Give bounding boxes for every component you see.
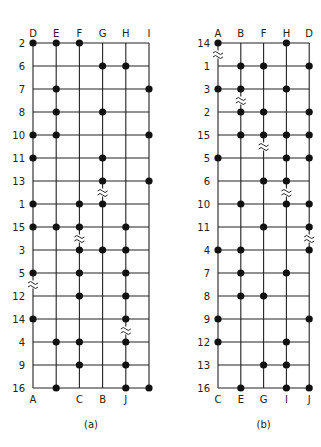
connection-dot (237, 131, 244, 138)
connection-dot (283, 200, 290, 207)
connection-dot (237, 384, 244, 391)
connection-dot (145, 384, 152, 391)
connection-dot (237, 62, 244, 69)
connection-dot (122, 315, 129, 322)
column-label-bottom: G (260, 394, 268, 405)
column-label-bottom: J (123, 394, 127, 405)
row-label: 15 (197, 130, 210, 141)
connection-dot (76, 292, 83, 299)
connection-dot (283, 177, 290, 184)
row-label: 12 (197, 337, 210, 348)
connection-dot (283, 384, 290, 391)
connection-dot (237, 269, 244, 276)
connection-dot (260, 292, 267, 299)
row-label: 11 (12, 153, 25, 164)
connection-dot (122, 292, 129, 299)
connection-dot (260, 62, 267, 69)
column-label-bottom: C (215, 394, 222, 405)
row-label: 4 (204, 245, 210, 256)
connection-dot (306, 108, 313, 115)
connection-dot (237, 108, 244, 115)
row-label: 7 (204, 268, 210, 279)
row-label: 6 (204, 176, 210, 187)
connection-dot (99, 177, 106, 184)
connection-dot (283, 154, 290, 161)
row-label: 10 (197, 199, 210, 210)
row-label: 7 (19, 84, 25, 95)
connection-dot (145, 131, 152, 138)
connection-dot (306, 131, 313, 138)
connection-dot (76, 200, 83, 207)
row-label: 4 (19, 337, 25, 348)
column-label-top: A (215, 28, 222, 39)
connection-dot (237, 85, 244, 92)
row-label: 12 (12, 291, 25, 302)
connection-dot (283, 361, 290, 368)
diagram-a: DEFGHIACBJ26781011131153512144916(a) (12, 28, 152, 430)
connection-dot (283, 131, 290, 138)
connection-dot (29, 200, 36, 207)
connection-dot (53, 338, 60, 345)
connection-dot (29, 154, 36, 161)
row-label: 10 (12, 130, 25, 141)
row-label: 9 (19, 360, 25, 371)
connection-dot (214, 246, 221, 253)
row-label: 2 (204, 107, 210, 118)
column-label-top: I (148, 28, 151, 39)
connection-dot (214, 315, 221, 322)
connection-dot (122, 223, 129, 230)
row-label: 2 (19, 38, 25, 49)
connection-dot (283, 269, 290, 276)
column-label-bottom: C (76, 394, 83, 405)
diagram-caption: (a) (84, 419, 98, 430)
column-label-top: D (29, 28, 37, 39)
connection-dot (29, 315, 36, 322)
connection-dot (99, 200, 106, 207)
row-label: 6 (19, 61, 25, 72)
connection-dot (214, 154, 221, 161)
connection-dot (29, 223, 36, 230)
connection-dot (122, 361, 129, 368)
column-label-top: F (77, 28, 83, 39)
column-label-top: D (305, 28, 313, 39)
row-label: 1 (19, 199, 25, 210)
connection-dot (122, 338, 129, 345)
row-label: 3 (19, 245, 25, 256)
connection-dot (306, 246, 313, 253)
row-label: 9 (204, 314, 210, 325)
row-label: 3 (204, 84, 210, 95)
connection-dot (29, 39, 36, 46)
connection-dot (76, 361, 83, 368)
column-label-top: H (122, 28, 130, 39)
connection-dot (214, 338, 221, 345)
column-label-bottom: A (30, 394, 37, 405)
column-label-top: F (261, 28, 267, 39)
connection-dot (237, 246, 244, 253)
connection-dot (76, 39, 83, 46)
connection-dot (214, 85, 221, 92)
connection-dot (53, 85, 60, 92)
column-label-top: B (237, 28, 244, 39)
connection-dot (237, 292, 244, 299)
connection-dot (260, 108, 267, 115)
connection-dot (306, 223, 313, 230)
connection-dot (283, 85, 290, 92)
connection-dot (306, 154, 313, 161)
column-label-bottom: B (99, 394, 106, 405)
connection-dot (122, 384, 129, 391)
row-label: 16 (197, 383, 210, 394)
connection-dot (237, 200, 244, 207)
row-label: 8 (19, 107, 25, 118)
connection-dot (145, 85, 152, 92)
connection-dot (283, 338, 290, 345)
column-label-bottom: E (238, 394, 244, 405)
connection-dot (122, 269, 129, 276)
connection-dot (99, 246, 106, 253)
wiring-diagrams-canvas: DEFGHIACBJ26781011131153512144916(a) ABF… (0, 0, 321, 447)
connection-dot (306, 200, 313, 207)
connection-dot (76, 338, 83, 345)
connection-dot (306, 384, 313, 391)
connection-dot (53, 223, 60, 230)
row-label: 5 (204, 153, 210, 164)
connection-dot (53, 39, 60, 46)
